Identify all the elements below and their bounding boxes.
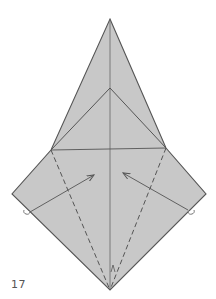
origami-diagram	[0, 0, 216, 299]
paper-shape	[12, 19, 206, 290]
step-number: 17	[11, 278, 26, 291]
